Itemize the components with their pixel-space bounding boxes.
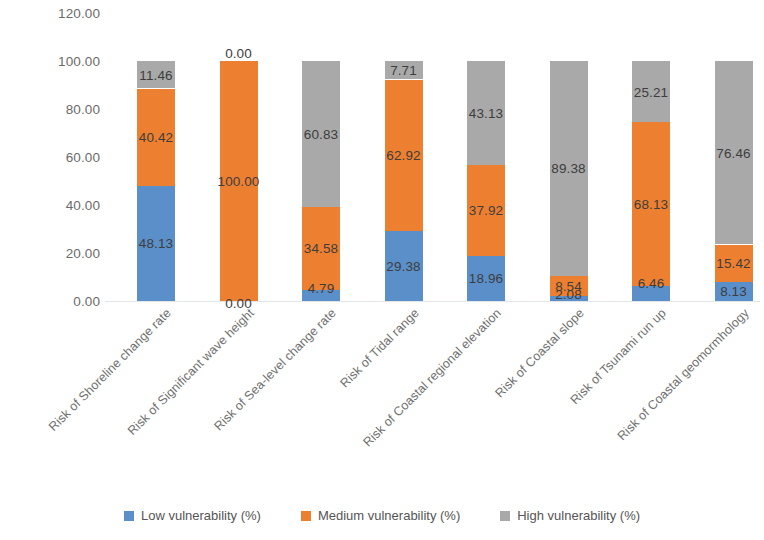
y-axis-tick-label: 120.00 [30,6,100,21]
legend-label: High vulnerability (%) [517,508,640,523]
bar-group[interactable] [467,13,505,301]
y-axis: 0.0020.0040.0060.0080.00100.00120.00 [28,0,100,540]
bar-value-label: 8.54 [555,278,582,293]
bar-value-label: 100.00 [218,174,260,189]
bar-value-label: 43.13 [469,105,503,120]
bar-value-label: 7.71 [390,63,417,78]
x-axis-baseline [105,301,760,302]
y-axis-tick-label: 40.00 [30,198,100,213]
legend-swatch-icon [500,511,510,521]
chart-legend: Low vulnerability (%)Medium vulnerabilit… [0,508,764,523]
bar-group[interactable] [632,13,670,301]
bar-value-label: 89.38 [551,161,585,176]
bar-value-label: 29.38 [386,258,420,273]
x-axis-category-label: Risk of Coastal regional elevation [360,306,503,449]
bar-group[interactable] [302,13,340,301]
plot-area: 48.1340.4211.460.00100.000.004.7934.5860… [105,13,760,301]
bar-value-label: 62.92 [386,147,420,162]
bar-value-label: 18.96 [469,271,503,286]
y-axis-tick-label: 80.00 [30,102,100,117]
legend-item[interactable]: High vulnerability (%) [500,508,640,523]
x-axis-category-label: Risk of Tidal range [337,306,421,390]
bar-value-label: 48.13 [139,236,173,251]
legend-label: Low vulnerability (%) [141,508,261,523]
bar-value-label: 11.46 [139,67,172,82]
bar-value-label: 34.58 [304,241,338,256]
x-axis-category-label: Risk of Tsunami run up [568,306,669,407]
bar-value-label: 15.42 [716,255,750,270]
legend-label: Medium vulnerability (%) [318,508,460,523]
y-axis-tick-label: 0.00 [30,294,100,309]
legend-swatch-icon [124,511,134,521]
legend-item[interactable]: Medium vulnerability (%) [301,508,460,523]
y-axis-tick-label: 60.00 [30,150,100,165]
bar-group[interactable] [137,13,175,301]
x-axis-category-label: Risk of Coastal geomormhology [614,306,751,443]
legend-item[interactable]: Low vulnerability (%) [124,508,261,523]
bar-value-label: 68.13 [634,196,668,211]
y-axis-tick-label: 20.00 [30,246,100,261]
bar-value-label: 25.21 [634,84,668,99]
bar-value-label: 4.79 [308,280,335,295]
bar-value-label: 37.92 [469,202,503,217]
bar-value-label: 40.42 [139,129,173,144]
y-axis-tick-label: 100.00 [30,54,100,69]
legend-swatch-icon [301,511,311,521]
x-axis-category-label: Risk of Coastal slope [492,306,586,400]
bar-value-label: 0.00 [225,46,252,61]
bar-value-label: 6.46 [638,276,665,291]
bar-group[interactable] [550,13,588,301]
bar-value-label: 60.83 [304,126,338,141]
bar-value-label: 8.13 [720,284,747,299]
bar-value-label: 76.46 [716,145,750,160]
stacked-bar-chart: 0.0020.0040.0060.0080.00100.00120.00 48.… [0,0,764,540]
